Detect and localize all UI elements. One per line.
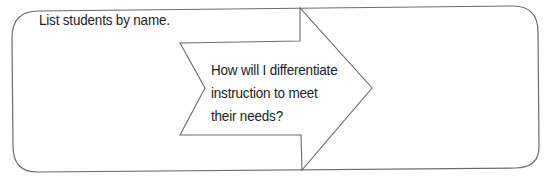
differentiation-question: How will I differentiate instruction to …	[211, 59, 369, 128]
list-students-label: List students by name.	[39, 12, 170, 28]
